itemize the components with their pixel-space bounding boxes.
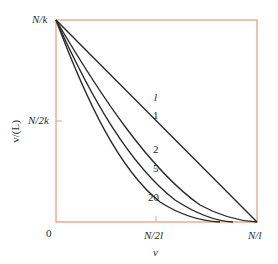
curve-20 <box>56 20 220 222</box>
x-axis-label: v <box>153 247 158 258</box>
curve-label-5: 5 <box>153 163 159 174</box>
curve-label-2: 2 <box>153 144 159 155</box>
y-tick-label-mid: N/2k <box>28 115 49 126</box>
x-tick-label-mid: N/2l <box>144 230 163 241</box>
curve-label-1: 1 <box>153 110 159 121</box>
origin-label: 0 <box>46 228 52 239</box>
curve-5 <box>56 20 233 222</box>
chart-canvas <box>0 0 278 264</box>
y-axis-label: v/(L) <box>10 120 21 143</box>
curve-label-20: 20 <box>148 192 159 203</box>
y-tick-label-top: N/k <box>32 14 47 25</box>
x-tick-label-end: N/l <box>248 230 261 241</box>
legend-title: l <box>154 92 157 103</box>
